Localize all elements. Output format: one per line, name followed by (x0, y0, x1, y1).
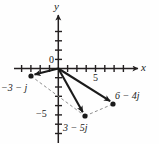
x-axis-tick-label-5: 5 (93, 73, 98, 83)
vectors (35, 69, 111, 113)
point-marker-p3 (110, 101, 115, 106)
y-axis (55, 15, 62, 143)
point-marker-p1 (28, 73, 33, 78)
vector-to-p3 (58, 69, 110, 102)
complex-plane-diagram: x y 0 5 −5 −3 − j 3 − 5j 6 − 4j (0, 0, 159, 144)
point-label-minus-3-minus-j: −3 − j (1, 83, 27, 93)
dashed-line-p2-p3 (85, 104, 113, 116)
point-marker-p2 (82, 113, 87, 118)
y-axis-tick-label-minus-5: −5 (36, 109, 47, 119)
point-label-3-minus-5j: 3 − 5j (63, 123, 88, 133)
vector-to-p1 (35, 69, 59, 75)
x-axis-label: x (141, 62, 146, 73)
x-axis (14, 65, 138, 72)
origin-label: 0 (49, 55, 54, 65)
point-label-6-minus-4j: 6 − 4j (115, 91, 140, 101)
y-axis-label: y (54, 1, 59, 12)
